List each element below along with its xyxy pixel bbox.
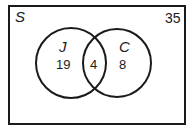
outside-count: 35 <box>165 10 181 26</box>
set-j-label: J <box>59 38 67 55</box>
intersection-count: 4 <box>90 57 97 72</box>
set-j-only-count: 19 <box>56 57 70 72</box>
universal-set-label: S <box>15 8 25 25</box>
set-c-only-count: 8 <box>119 57 126 72</box>
set-c-label: C <box>119 38 130 55</box>
